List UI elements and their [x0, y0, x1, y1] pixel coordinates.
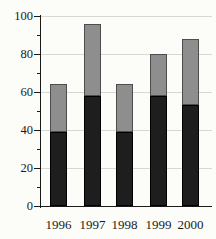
x-axis-tick-label: 1999: [141, 217, 177, 232]
x-axis-tick-label: 1998: [107, 217, 143, 232]
y-axis-tick-label: 100: [0, 9, 33, 23]
y-axis-tick-label: 20: [0, 161, 33, 175]
bar-2000-solid-dark-segment: [182, 105, 199, 206]
bar-1998-solid-dark-segment: [116, 132, 133, 206]
y-axis-tick-label: 80: [0, 47, 33, 61]
y-axis-line: [40, 15, 42, 208]
x-axis-tick-label: 1996: [41, 217, 77, 232]
bar-1997-shaded-gray-segment: [84, 24, 101, 96]
bar-2000-shaded-gray-segment: [182, 39, 199, 106]
y-axis-tick-label: 60: [0, 85, 33, 99]
bar-1996-shaded-gray-segment: [50, 84, 67, 132]
y-axis-tick-label: 0: [0, 199, 33, 213]
x-axis-tick-label: 1997: [75, 217, 111, 232]
stacked-bar-chart: 02040608010019961997199819992000: [0, 0, 216, 239]
gridline: [41, 16, 212, 17]
bar-1999-shaded-gray-segment: [150, 54, 167, 96]
bar-1996-solid-dark-segment: [50, 132, 67, 206]
bar-1997-solid-dark-segment: [84, 96, 101, 206]
bar-1998-shaded-gray-segment: [116, 84, 133, 132]
bar-1999-solid-dark-segment: [150, 96, 167, 206]
x-axis-tick-label: 2000: [173, 217, 209, 232]
y-axis-tick-label: 40: [0, 123, 33, 137]
